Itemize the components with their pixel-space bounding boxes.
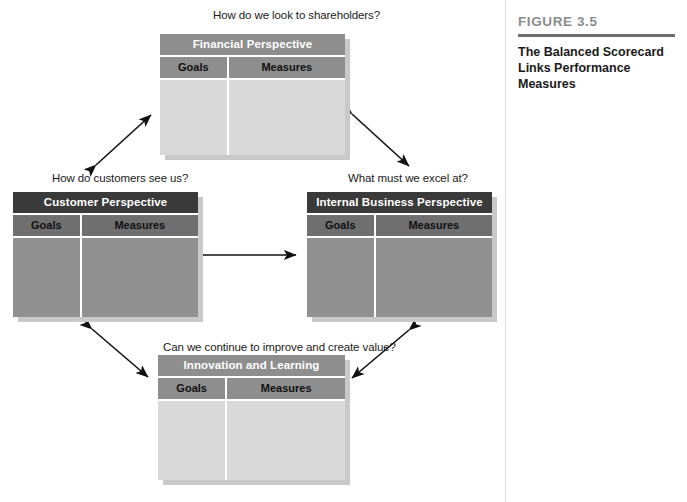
figure-divider-rule	[518, 34, 675, 37]
cell-goals[interactable]	[160, 80, 229, 155]
column-header-measures: Measures	[227, 378, 345, 399]
column-header-goals: Goals	[307, 215, 376, 236]
column-header-row: Goals Measures	[160, 57, 345, 80]
cell-measures[interactable]	[82, 238, 198, 317]
cell-goals[interactable]	[13, 238, 82, 317]
balanced-scorecard-diagram: How do we look to shareholders? How do c…	[0, 0, 505, 502]
cell-measures[interactable]	[227, 401, 345, 480]
perspective-body	[160, 80, 345, 155]
question-customer: How do customers see us?	[52, 172, 188, 184]
figure-title: The Balanced Scorecard Links Performance…	[518, 44, 678, 92]
cell-goals[interactable]	[158, 401, 227, 480]
column-header-measures: Measures	[82, 215, 198, 236]
connector-financial-internal	[352, 114, 409, 166]
perspective-box-customer[interactable]: Customer Perspective Goals Measures	[13, 192, 198, 317]
perspective-box-internal-business[interactable]: Internal Business Perspective Goals Meas…	[307, 192, 492, 317]
column-header-measures: Measures	[229, 57, 345, 78]
connector-customer-innovation	[92, 329, 148, 377]
column-header-row: Goals Measures	[307, 215, 492, 238]
perspective-title-innovation-learning: Innovation and Learning Perspective	[158, 355, 345, 378]
cell-measures[interactable]	[229, 80, 345, 155]
figure-caption-panel: FIGURE 3.5 The Balanced Scorecard Links …	[505, 0, 687, 502]
perspective-body	[13, 238, 198, 317]
connector-financial-customer	[96, 115, 151, 165]
question-innovation-learning: Can we continue to improve and create va…	[163, 341, 396, 353]
cell-measures[interactable]	[376, 238, 492, 317]
column-header-row: Goals Measures	[13, 215, 198, 238]
perspective-box-financial[interactable]: Financial Perspective Goals Measures	[160, 34, 345, 155]
perspective-title-internal-business: Internal Business Perspective	[307, 192, 492, 215]
perspective-body	[307, 238, 492, 317]
figure-number: FIGURE 3.5	[518, 14, 598, 29]
column-header-goals: Goals	[160, 57, 229, 78]
perspective-title-financial: Financial Perspective	[160, 34, 345, 57]
perspective-body	[158, 401, 345, 480]
perspective-box-innovation-learning[interactable]: Innovation and Learning Perspective Goal…	[158, 355, 345, 480]
cell-goals[interactable]	[307, 238, 376, 317]
column-header-goals: Goals	[13, 215, 82, 236]
perspective-title-customer: Customer Perspective	[13, 192, 198, 215]
column-header-goals: Goals	[158, 378, 227, 399]
column-header-row: Goals Measures	[158, 378, 345, 401]
column-header-measures: Measures	[376, 215, 492, 236]
question-financial: How do we look to shareholders?	[213, 9, 380, 21]
connector-internal-innovation	[352, 330, 409, 378]
question-internal-business: What must we excel at?	[348, 172, 468, 184]
